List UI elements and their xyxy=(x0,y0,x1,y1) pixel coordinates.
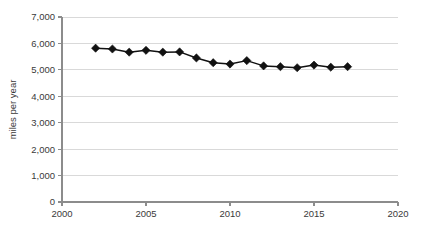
y-axis-title: miles per year xyxy=(7,80,18,140)
y-tick-label-2000: 2,000 xyxy=(31,144,55,155)
y-tick-label-3000: 3,000 xyxy=(31,117,55,128)
data-point-2005 xyxy=(142,46,150,54)
data-point-2002 xyxy=(92,44,100,52)
data-point-2008 xyxy=(192,54,200,62)
data-point-2006 xyxy=(159,48,167,56)
x-axis-tick-labels: 20002005201020152020 xyxy=(51,208,408,219)
line-chart: 01,0002,0003,0004,0005,0006,0007,000 200… xyxy=(0,0,421,243)
data-point-2012 xyxy=(260,62,268,70)
data-point-2014 xyxy=(293,64,301,72)
data-point-2004 xyxy=(125,48,133,56)
x-axis-tick-marks xyxy=(62,202,398,206)
y-axis-tick-marks xyxy=(58,17,62,202)
x-tick-label-2015: 2015 xyxy=(303,208,324,219)
gridlines-group xyxy=(62,17,398,176)
y-tick-label-4000: 4,000 xyxy=(31,91,55,102)
data-point-2007 xyxy=(176,48,184,56)
data-point-2010 xyxy=(226,60,234,68)
y-tick-label-0: 0 xyxy=(50,196,55,207)
y-tick-label-5000: 5,000 xyxy=(31,64,55,75)
y-axis-tick-labels: 01,0002,0003,0004,0005,0006,0007,000 xyxy=(31,11,55,207)
data-point-markers xyxy=(92,44,352,72)
data-point-2015 xyxy=(310,61,318,69)
y-tick-label-1000: 1,000 xyxy=(31,170,55,181)
data-point-2011 xyxy=(243,57,251,65)
y-tick-label-7000: 7,000 xyxy=(31,11,55,22)
data-point-2009 xyxy=(209,59,217,67)
data-point-2003 xyxy=(108,45,116,53)
y-tick-label-6000: 6,000 xyxy=(31,38,55,49)
x-tick-label-2010: 2010 xyxy=(219,208,240,219)
x-tick-label-2020: 2020 xyxy=(387,208,408,219)
chart-figure: 01,0002,0003,0004,0005,0006,0007,000 200… xyxy=(0,0,421,243)
x-tick-label-2000: 2000 xyxy=(51,208,72,219)
x-tick-label-2005: 2005 xyxy=(135,208,156,219)
